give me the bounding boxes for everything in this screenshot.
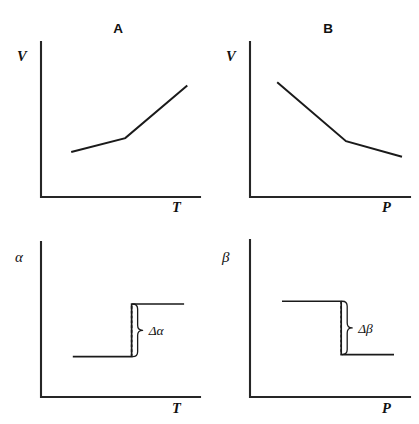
panel-a-axes: [41, 42, 200, 197]
panel-c-delta-alpha-label: Δα: [148, 323, 165, 338]
panel-c-step-curve: [73, 304, 184, 357]
panel-d-delta-brace: [342, 301, 352, 354]
panel-d-step-curve: [282, 301, 394, 354]
panel-b-curve: [277, 82, 402, 156]
panel-b-title: B: [323, 21, 333, 36]
panel-a-x-axis-label: T: [172, 199, 182, 212]
panel-b-y-axis-label: V: [226, 48, 237, 64]
panel-a-curve: [71, 85, 187, 152]
panel-d-x-axis-label: P: [382, 400, 391, 416]
panel-c-alpha-vs-temperature: α T Δα: [0, 212, 210, 424]
figure-root: A V T B V P α T Δα: [0, 0, 419, 424]
panel-b-axes: [250, 42, 410, 197]
panel-d-beta-vs-pressure: β P Δβ: [209, 212, 419, 424]
panel-c-y-axis-label: α: [15, 249, 24, 265]
panel-b-x-axis-label: P: [382, 199, 391, 212]
panel-d-axes: [250, 240, 410, 397]
panel-a-title: A: [113, 21, 123, 36]
panel-a-volume-vs-temperature: A V T: [0, 0, 210, 212]
panel-c-delta-brace: [133, 304, 143, 357]
panel-c-axes: [41, 242, 200, 397]
panel-d-delta-beta-label: Δβ: [357, 321, 373, 336]
panel-a-y-axis-label: V: [17, 48, 28, 64]
panel-c-x-axis-label: T: [172, 400, 182, 416]
panel-b-volume-vs-pressure: B V P: [209, 0, 419, 212]
panel-d-y-axis-label: β: [221, 249, 230, 265]
